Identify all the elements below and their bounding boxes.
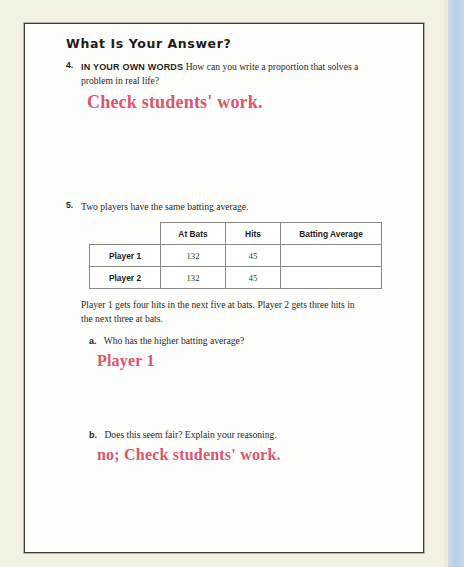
worksheet-content: What Is Your Answer? 4. IN YOUR OWN WORD… (25, 24, 424, 553)
exercise-5-part-b-answer: no; Check students' work. (97, 446, 281, 464)
part-b-question: Does this seem fair? Explain your reason… (104, 429, 276, 440)
table-row: Player 1 132 45 (90, 245, 382, 267)
cell-player-2-batting-average (281, 267, 382, 289)
part-b-letter: b. (89, 430, 97, 440)
cell-player-2-at-bats: 132 (161, 267, 226, 289)
table-row: Player 2 132 45 (90, 267, 382, 289)
exercise-4-answer: Check students' work. (87, 92, 263, 113)
exercise-5-number: 5. (66, 200, 73, 210)
table-corner-cell (90, 223, 161, 245)
batting-average-table: At Bats Hits Batting Average Player 1 13… (89, 222, 382, 289)
scan-edge-strip (448, 0, 464, 567)
exercise-4-number: 4. (66, 60, 73, 70)
cell-player-1-batting-average (281, 245, 382, 267)
exercise-5-prompt: Two players have the same batting averag… (81, 200, 366, 213)
exercise-4-callout: IN YOUR OWN WORDS (81, 62, 183, 72)
row-header-player-2: Player 2 (90, 267, 161, 289)
cell-player-2-hits: 45 (226, 267, 281, 289)
column-header-batting-average: Batting Average (281, 223, 382, 245)
row-header-player-1: Player 1 (90, 245, 161, 267)
batting-average-table-wrapper: At Bats Hits Batting Average Player 1 13… (89, 222, 382, 289)
exercise-5-part-b: b. Does this seem fair? Explain your rea… (89, 428, 369, 442)
page-title: What Is Your Answer? (66, 36, 231, 51)
column-header-hits: Hits (226, 223, 281, 245)
part-a-question: Who has the higher batting average? (104, 335, 244, 346)
exercise-4-prompt: IN YOUR OWN WORDS How can you write a pr… (81, 60, 366, 87)
table-header-row: At Bats Hits Batting Average (90, 223, 382, 245)
cell-player-1-hits: 45 (226, 245, 281, 267)
cell-player-1-at-bats: 132 (161, 245, 226, 267)
exercise-5-part-a: a. Who has the higher batting average? (89, 334, 369, 348)
part-a-letter: a. (89, 336, 97, 346)
exercise-5-question: Two players have the same batting averag… (81, 201, 248, 212)
exercise-5-part-a-answer: Player 1 (97, 352, 155, 370)
exercise-5-followup: Player 1 gets four hits in the next five… (81, 298, 367, 325)
column-header-at-bats: At Bats (161, 223, 226, 245)
worksheet-page: What Is Your Answer? 4. IN YOUR OWN WORD… (24, 23, 424, 553)
exercise-4: 4. IN YOUR OWN WORDS How can you write a… (66, 60, 366, 87)
exercise-5: 5. Two players have the same batting ave… (66, 200, 366, 213)
